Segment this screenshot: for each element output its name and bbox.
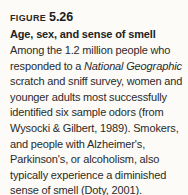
figure-header: FIGURE5.26 (10, 9, 183, 25)
figure-label: FIGURE (10, 13, 46, 23)
figure-subtitle: Age, sex, and sense of smell (10, 27, 183, 42)
figure-number: 5.26 (49, 10, 73, 24)
figure-body-italic-source: National Geographic (84, 60, 182, 72)
figure-caption-block: FIGURE5.26 Age, sex, and sense of smell … (0, 0, 188, 195)
figure-body-text: Among the 1.2 million people who respond… (10, 43, 183, 195)
figure-body-segment-2: scratch and sniff survey, women and youn… (10, 75, 182, 195)
